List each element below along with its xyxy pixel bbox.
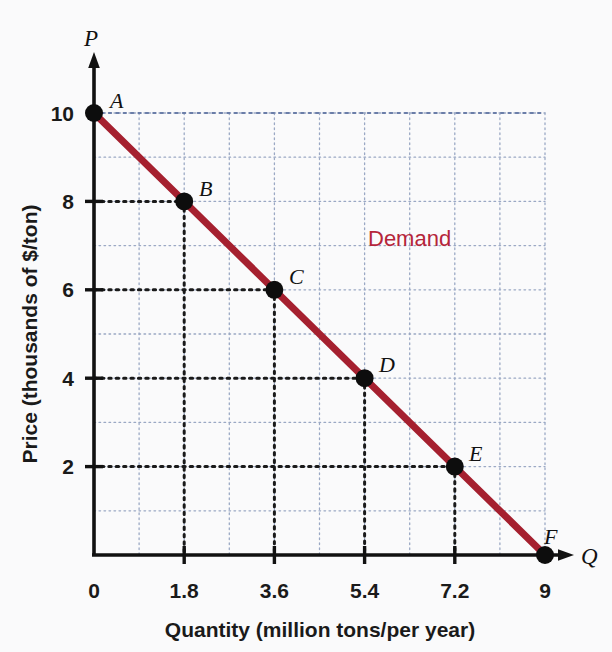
y-tick-label-8: 8 bbox=[62, 190, 74, 213]
y-tick-label-10: 10 bbox=[51, 102, 74, 125]
data-point-label-f: F bbox=[543, 524, 558, 549]
data-point-label-d: D bbox=[378, 352, 395, 377]
x-tick-label-9: 9 bbox=[539, 579, 551, 602]
data-point-e[interactable] bbox=[446, 458, 464, 476]
data-point-label-e: E bbox=[468, 441, 483, 466]
y-tick-label-4: 4 bbox=[62, 367, 74, 390]
data-point-label-b: B bbox=[199, 176, 212, 201]
x-tick-label-0: 0 bbox=[88, 579, 100, 602]
data-point-b[interactable] bbox=[175, 192, 193, 210]
data-point-label-c: C bbox=[289, 264, 304, 289]
y-tick-label-2: 2 bbox=[62, 455, 74, 478]
y-tick-label-6: 6 bbox=[62, 278, 74, 301]
demand-curve-chart: A B C D E F P Q Demand 2 4 6 8 10 0 1.8 … bbox=[0, 0, 612, 652]
y-axis-title: Price (thousands of $/ton) bbox=[18, 204, 41, 463]
x-axis-arrow bbox=[558, 549, 574, 561]
demand-series-label: Demand bbox=[368, 226, 451, 251]
x-tick-label-3-6: 3.6 bbox=[260, 579, 289, 602]
x-axis-symbol: Q bbox=[581, 544, 598, 569]
y-axis-symbol: P bbox=[83, 26, 98, 51]
chart-page: A B C D E F P Q Demand 2 4 6 8 10 0 1.8 … bbox=[0, 0, 612, 652]
x-tick-label-5-4: 5.4 bbox=[350, 579, 380, 602]
data-point-a[interactable] bbox=[85, 104, 103, 122]
data-point-label-a: A bbox=[108, 88, 124, 113]
data-point-d[interactable] bbox=[356, 369, 374, 387]
x-tick-label-1-8: 1.8 bbox=[170, 579, 200, 602]
x-tick-label-7-2: 7.2 bbox=[440, 579, 469, 602]
data-point-c[interactable] bbox=[265, 281, 283, 299]
y-axis-arrow bbox=[88, 52, 100, 68]
x-axis-title: Quantity (million tons/per year) bbox=[165, 618, 475, 641]
axes bbox=[88, 52, 574, 561]
